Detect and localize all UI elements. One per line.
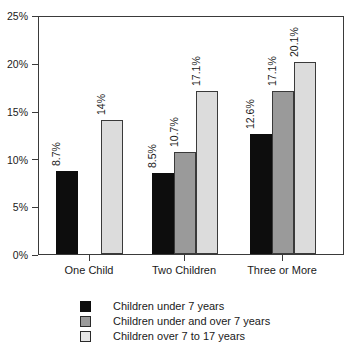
plot-area: 8.7% 14% 8.5% 10.7% 17.1% 12.6% 17.1% 20… — [38, 16, 344, 255]
bar — [56, 171, 78, 254]
legend-item-label: Children under 7 years — [113, 300, 224, 313]
bar-value-label: 10.7% — [169, 117, 180, 147]
bar-value-label: 20.1% — [289, 27, 300, 57]
bar — [101, 120, 123, 254]
bar-value-label: 8.5% — [147, 144, 158, 168]
bar — [294, 62, 316, 254]
bar-value-label: 8.7% — [51, 142, 62, 166]
x-tick-label: Three or More — [247, 264, 317, 277]
bar — [250, 134, 272, 254]
legend-item: Children under 7 years — [80, 299, 310, 313]
legend-swatch-icon — [80, 331, 91, 342]
legend-item-label: Children over 7 to 17 years — [113, 330, 245, 343]
x-tick-label: One Child — [65, 264, 114, 277]
x-tick-label: Two Children — [152, 264, 216, 277]
y-tick-mark — [32, 255, 38, 256]
bar-value-label: 17.1% — [191, 56, 202, 86]
y-tick-label: 25% — [7, 11, 28, 21]
y-tick-label: 10% — [7, 155, 28, 165]
legend-item: Children under and over 7 years — [80, 314, 310, 328]
bar — [152, 173, 174, 254]
y-axis: 25% 20% 15% 10% 5% 0% — [0, 0, 38, 271]
y-tick-label: 20% — [7, 59, 28, 69]
x-tick-mark — [89, 255, 90, 261]
bar — [272, 91, 294, 255]
bar-value-label: 17.1% — [267, 56, 278, 86]
bar-value-label: 12.6% — [245, 99, 256, 129]
bar — [174, 152, 196, 254]
bar-chart: 25% 20% 15% 10% 5% 0% 8.7% 14% 8.5% 10.7… — [0, 0, 356, 353]
x-tick-mark — [184, 255, 185, 261]
bar-value-label: 14% — [96, 94, 107, 115]
x-tick-mark — [282, 255, 283, 261]
legend-item: Children over 7 to 17 years — [80, 329, 310, 343]
y-tick-label: 0% — [13, 250, 28, 260]
y-tick-label: 5% — [13, 202, 28, 212]
legend-swatch-icon — [80, 301, 91, 312]
bar — [196, 91, 218, 255]
legend-item-label: Children under and over 7 years — [113, 315, 270, 328]
chart-legend: Children under 7 years Children under an… — [80, 299, 310, 344]
y-tick-label: 15% — [7, 107, 28, 117]
legend-swatch-icon — [80, 316, 91, 327]
